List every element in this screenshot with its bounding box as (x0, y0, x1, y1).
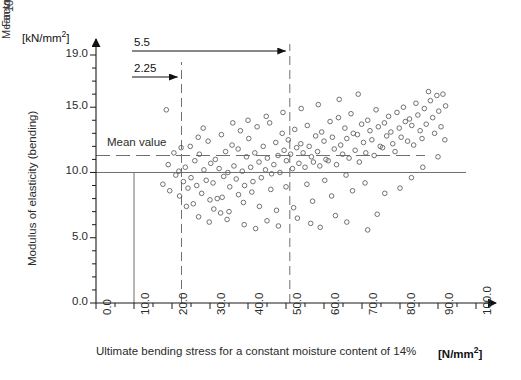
data-point-markers (161, 89, 448, 232)
dimension-label-5-5: 5.5 (134, 36, 150, 48)
x-tick-label: 30.0 (215, 293, 227, 315)
x-tick-label: 10.0 (139, 293, 151, 315)
mean-value-vertical-label: Mean value (0, 0, 12, 39)
x-tick-label: 0.0 (101, 299, 113, 315)
x-tick-label: 60.0 (329, 293, 341, 315)
y-axis-unit-label: [kN/mm2] (22, 29, 70, 44)
x-tick-label: 80.0 (405, 293, 417, 315)
y-tick-label: 10.0 (44, 164, 88, 176)
y-tick-label: 19.0 (44, 47, 88, 59)
y-tick-label: 5.0 (44, 230, 88, 242)
y-tick-label: 0.0 (44, 295, 88, 307)
x-tick-label: 50.0 (291, 293, 303, 315)
x-tick-label: 70.0 (367, 293, 379, 315)
annotation-lines (96, 44, 466, 303)
dimension-label-2-25: 2.25 (134, 62, 156, 74)
x-axis-unit-label: [N/mm2] (438, 345, 482, 360)
x-tick-label: 20.0 (177, 293, 189, 315)
y-tick-label: 15.0 (44, 99, 88, 111)
x-tick-label: 40.0 (253, 293, 265, 315)
mean-value-horizontal-label: Mean value (107, 136, 166, 148)
y-unit-text: [kN/mm2] (22, 32, 70, 44)
axes (90, 39, 496, 309)
y-axis-title: Modulus of elasticity (bending) (26, 111, 38, 266)
scatter-chart-figure: [kN/mm2] Modulus of elasticity (bending)… (0, 0, 521, 380)
x-tick-label: 90.0 (443, 293, 455, 315)
x-axis-title: Ultimate bending stress for a constant m… (96, 345, 416, 357)
x-tick-label: 100.0 (481, 286, 493, 315)
